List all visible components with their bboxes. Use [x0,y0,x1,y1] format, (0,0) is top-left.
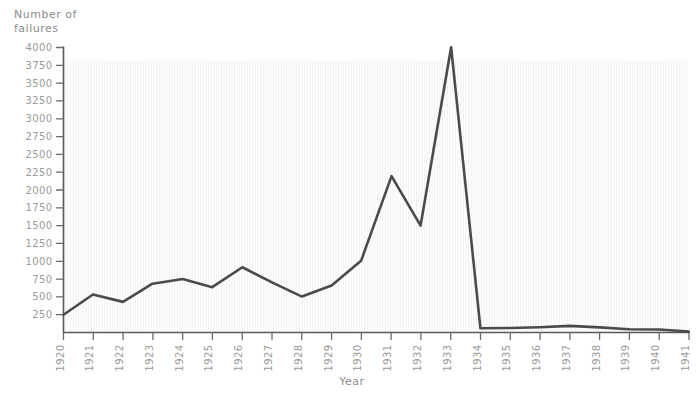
y-tick-label: 4000 [25,42,52,53]
y-tick-label: 250 [32,309,52,320]
x-tick-label: 1922 [114,345,125,372]
y-tick-label: 750 [32,274,52,285]
x-tick-label: 1926 [233,345,244,372]
x-tick-label: 1928 [293,345,304,372]
y-tick-label: 2500 [25,149,52,160]
y-tick-label: 2000 [25,185,52,196]
x-tick-label: 1934 [472,345,483,372]
y-axis-title-line2: failures [14,22,58,35]
y-tick-label: 3500 [25,78,52,89]
y-tick-label: 2250 [25,167,52,178]
x-tick-label: 1936 [531,345,542,372]
y-tick-label: 2750 [25,131,52,142]
x-tick-label: 1924 [174,345,185,372]
y-tick-label: 3250 [25,95,52,106]
failures-line-chart: 2505007501000125015001750200022502500275… [0,0,696,398]
x-tick-label: 1933 [442,345,453,372]
x-tick-label: 1920 [55,345,66,372]
x-tick-label: 1939 [620,345,631,372]
y-tick-label: 1000 [25,256,52,267]
y-tick-label: 3750 [25,60,52,71]
x-tick-label: 1931 [382,345,393,372]
x-tick-label: 1927 [263,345,274,372]
y-tick-label: 500 [32,291,52,302]
x-tick-label: 1930 [352,345,363,372]
x-axis-title: Year [338,375,364,388]
y-axis-title-line1: Number of [14,8,77,21]
chart-canvas: 2505007501000125015001750200022502500275… [0,0,696,398]
y-tick-label: 1250 [25,238,52,249]
x-tick-label: 1938 [591,345,602,372]
x-tick-label: 1940 [650,345,661,372]
x-tick-label: 1941 [680,345,691,372]
x-tick-label: 1921 [84,345,95,372]
x-tick-label: 1925 [203,345,214,372]
x-tick-label: 1929 [323,345,334,372]
y-tick-label: 3000 [25,113,52,124]
y-tick-label: 1750 [25,202,52,213]
x-tick-label: 1935 [501,345,512,372]
x-tick-label: 1937 [561,345,572,372]
y-tick-label: 1500 [25,220,52,231]
x-tick-label: 1932 [412,345,423,372]
x-tick-label: 1923 [144,345,155,372]
